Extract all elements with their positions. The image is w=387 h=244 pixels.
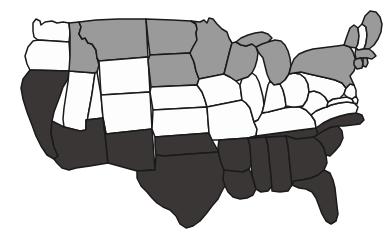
state-NE[interactable]: Nebraska: [150, 85, 207, 110]
us-states-map[interactable]: Washington Oregon California Nevada Idah…: [0, 0, 387, 244]
state-OR[interactable]: Oregon: [25, 40, 71, 71]
state-SD[interactable]: South Dakota: [148, 53, 199, 87]
state-LA[interactable]: Louisiana: [223, 169, 256, 199]
state-RI[interactable]: Rhode Island: [363, 58, 368, 67]
state-AR[interactable]: Arkansas: [218, 138, 252, 173]
state-CO[interactable]: Colorado: [101, 92, 152, 134]
state-CT[interactable]: Connecticut: [354, 58, 363, 69]
state-WY[interactable]: Wyoming: [99, 57, 150, 95]
state-WA[interactable]: Washington: [33, 19, 70, 42]
state-ND[interactable]: North Dakota: [146, 19, 197, 55]
state-KS[interactable]: Kansas: [152, 107, 209, 137]
us-map-container: Washington Oregon California Nevada Idah…: [0, 0, 387, 244]
state-VT[interactable]: Vermont: [344, 25, 359, 48]
state-shapes: Washington Oregon California Nevada Idah…: [21, 11, 382, 228]
